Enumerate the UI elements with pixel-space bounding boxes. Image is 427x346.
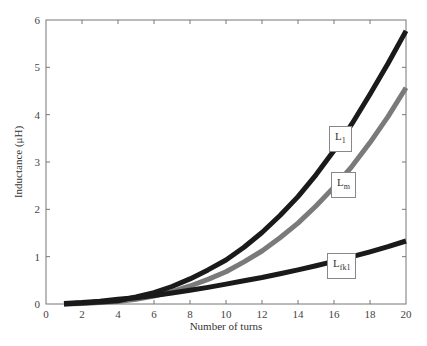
- label-lfk1: Lfk1: [327, 253, 356, 279]
- x-tick-label: 6: [151, 308, 157, 320]
- y-tick-label: 5: [35, 61, 41, 73]
- x-tick-label: 4: [115, 308, 121, 320]
- x-tick-label: 20: [401, 308, 413, 320]
- label-l1: L1: [329, 126, 352, 152]
- x-tick-label: 14: [293, 308, 305, 320]
- label-lfk1-main: L: [333, 257, 340, 269]
- x-tick-label: 8: [187, 308, 193, 320]
- label-lfk1-sub: fk1: [340, 263, 351, 272]
- label-l1-sub: 1: [342, 136, 346, 145]
- y-axis-title: Inductance (μH): [12, 126, 25, 199]
- x-tick-label: 12: [257, 308, 268, 320]
- y-tick-label: 1: [35, 251, 41, 263]
- y-tick-label: 4: [35, 109, 41, 121]
- label-lm-sub: m: [344, 182, 350, 191]
- x-tick-label: 2: [79, 308, 85, 320]
- x-tick-label: 0: [43, 308, 49, 320]
- y-tick-label: 0: [35, 298, 41, 310]
- x-tick-label: 16: [329, 308, 341, 320]
- x-tick-label: 10: [221, 308, 233, 320]
- x-tick-label: 18: [365, 308, 377, 320]
- y-tick-label: 3: [35, 156, 41, 168]
- inductance-chart: 024681012141618200123456 Number of turns…: [0, 0, 427, 346]
- label-l1-main: L: [335, 130, 342, 142]
- y-tick-label: 6: [35, 14, 41, 26]
- label-lm-main: L: [337, 176, 344, 188]
- y-tick-label: 2: [35, 203, 41, 215]
- label-lm: Lm: [331, 172, 356, 198]
- x-axis-title: Number of turns: [190, 320, 263, 332]
